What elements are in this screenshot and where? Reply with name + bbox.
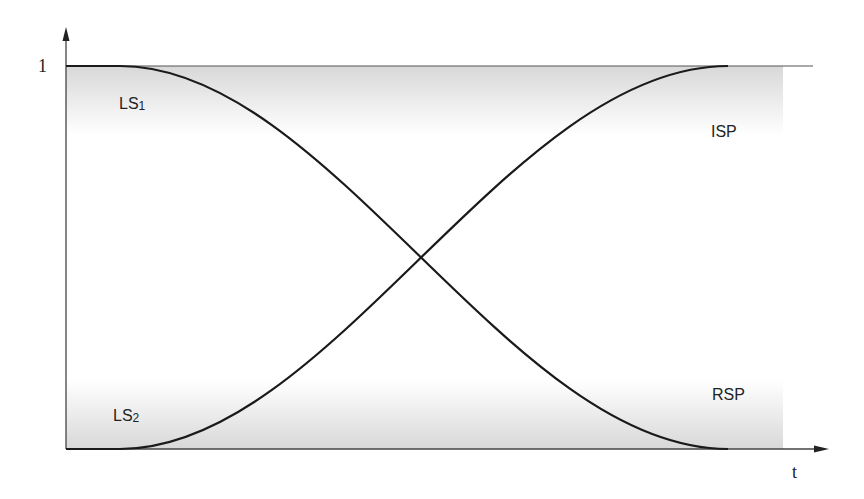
label-ls2-sub: 2 (133, 411, 140, 425)
sigmoid-diagram: 1 t LS1 LS2 ISP RSP (0, 0, 864, 499)
x-axis-label: t (792, 462, 797, 482)
shaded-region (66, 66, 783, 449)
y-axis-arrow-icon (63, 27, 70, 41)
label-rsp: RSP (712, 386, 745, 403)
label-isp: ISP (711, 123, 737, 140)
label-ls1-main: LS (119, 95, 139, 112)
label-ls1-sub: 1 (139, 99, 146, 113)
y-tick-one: 1 (38, 56, 47, 76)
x-axis-arrow-icon (814, 446, 829, 453)
label-ls2-main: LS (113, 407, 133, 424)
